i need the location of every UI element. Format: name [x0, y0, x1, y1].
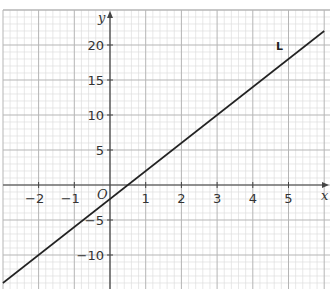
- y-axis-label: y: [97, 10, 106, 25]
- svg-text:2: 2: [177, 191, 185, 206]
- origin-label: O: [97, 187, 108, 202]
- x-axis-label: x: [321, 188, 329, 203]
- svg-text:3: 3: [213, 191, 221, 206]
- svg-text:5: 5: [96, 143, 104, 158]
- svg-text:−2: −2: [25, 191, 44, 206]
- line-graph: −2−112345−10−55101520 x y O L: [0, 0, 330, 289]
- line-L-label: L: [276, 40, 283, 53]
- svg-text:−1: −1: [61, 191, 80, 206]
- svg-text:5: 5: [284, 191, 292, 206]
- svg-text:10: 10: [87, 108, 104, 123]
- svg-text:15: 15: [87, 73, 104, 88]
- svg-text:−10: −10: [77, 248, 104, 263]
- svg-text:1: 1: [142, 191, 150, 206]
- svg-text:−5: −5: [85, 213, 104, 228]
- svg-text:20: 20: [87, 38, 104, 53]
- svg-text:4: 4: [249, 191, 257, 206]
